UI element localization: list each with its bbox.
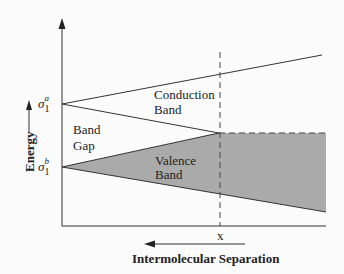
band-gap-label-line2: Gap [73,138,95,153]
valence-band-label-line2: Band [155,167,183,182]
energy-arrow-up-icon [26,100,32,110]
level-lower-label: σ1b [38,156,49,177]
separation-arrow-left-icon [144,241,155,248]
x-marker-label: x [217,228,224,243]
conduction-band-label-line2: Band [154,102,182,117]
y-axis-label: Energy [22,131,37,172]
x-axis-label: Intermolecular Separation [132,251,280,266]
level-upper-label: σ1a [38,93,49,114]
valence-band-label-line1: Valence [155,153,196,168]
band-diagram: σ1a σ1b Conduction Band Band Gap Valence… [0,0,344,274]
valence-band-region [62,133,326,212]
y-axis-arrowhead-icon [59,18,66,29]
conduction-band-label-line1: Conduction [154,87,215,102]
band-gap-label-line1: Band [73,122,101,137]
